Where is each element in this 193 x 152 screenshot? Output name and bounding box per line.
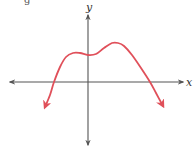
function-curve [45,43,163,107]
function-graph: y x [0,0,193,152]
x-axis-label: x [186,76,193,89]
y-axis-label: y [85,1,93,14]
